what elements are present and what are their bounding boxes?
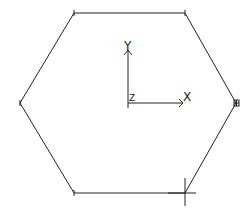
drawing-canvas[interactable]: Y X Z xyxy=(0,0,251,215)
crosshair-cursor-icon xyxy=(168,178,196,206)
drawing-svg: Y X Z xyxy=(0,0,251,215)
z-axis-label: Z xyxy=(129,93,135,103)
x-axis-label: X xyxy=(183,90,191,104)
y-axis-label: Y xyxy=(123,39,132,53)
